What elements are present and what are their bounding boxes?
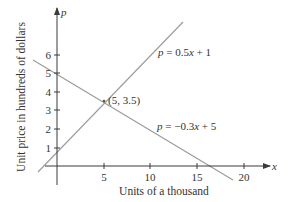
- y-tick-label-4: 4: [46, 86, 52, 98]
- supply-demand-chart: x p 5 10 15 20 1 2 3 4 5 6 (5, 3.5) p = …: [0, 0, 288, 202]
- x-tick-label-20: 20: [239, 171, 251, 183]
- intersection-point: [103, 100, 106, 103]
- y-tick-label-5: 5: [46, 67, 52, 79]
- y-tick-label-3: 3: [46, 104, 52, 116]
- y-tick-label-1: 1: [46, 142, 52, 154]
- x-axis-title: Units of a thousand: [119, 185, 209, 197]
- x-axis-symbol: x: [271, 160, 277, 172]
- equation-label-1: p = 0.5x + 1: [157, 46, 211, 58]
- x-tick-label-15: 15: [192, 171, 204, 183]
- x-tick-label-5: 5: [101, 171, 107, 183]
- y-tick-label-2: 2: [46, 123, 52, 135]
- x-tick-label-10: 10: [145, 171, 157, 183]
- y-axis-title: Unit price in hundreds of dollars: [15, 22, 28, 172]
- intersection-label: (5, 3.5): [108, 94, 140, 107]
- equation-label-2: p = −0.3x + 5: [156, 120, 217, 132]
- y-axis-symbol: p: [60, 6, 67, 18]
- y-tick-label-6: 6: [46, 49, 52, 61]
